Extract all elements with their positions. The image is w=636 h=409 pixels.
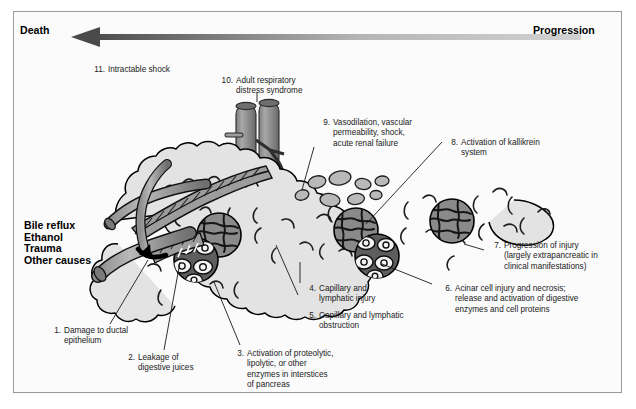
annotation-11-text: Intractable shock [108, 65, 206, 75]
necrosis-circle-right [430, 199, 474, 243]
annotation-5-number: 5. [302, 311, 319, 332]
annotation-10: 10. Adult respiratory distress syndrome [214, 76, 330, 97]
annotation-4: 4. Capillary and lymphatic injury [302, 284, 412, 305]
annotation-2-text: Leakage of digestive juices [138, 353, 219, 374]
causes-label: Bile reflux Ethanol Trauma Other causes [24, 220, 91, 266]
figure-panel: Death Progression Bile reflux Ethanol Tr… [13, 11, 622, 393]
annotation-8: 8. Activation of kallikrein system [444, 138, 584, 159]
annotation-1: 1. Damage to ductal epithelium [45, 326, 153, 347]
annotation-3-text: Activation of proteolytic, lipolytic, or… [247, 349, 362, 391]
annotation-2-number: 2. [119, 353, 138, 374]
annotation-5-text: Capillary and lymphatic obstruction [319, 311, 426, 332]
progression-label: Progression [533, 24, 595, 37]
annotation-2: 2. Leakage of digestive juices [119, 353, 219, 374]
progression-arrow [71, 27, 581, 47]
annotation-11-number: 11. [86, 65, 108, 75]
annotation-7-number: 7. [487, 241, 504, 272]
annotation-3: 3. Activation of proteolytic, lipolytic,… [230, 349, 362, 391]
annotation-9-number: 9. [316, 118, 333, 149]
annotation-11: 11. Intractable shock [86, 65, 206, 75]
annotation-8-number: 8. [444, 138, 461, 159]
annotation-3-number: 3. [230, 349, 247, 391]
annotation-7: 7. Progression of injury (largely extrap… [487, 241, 622, 272]
annotation-9: 9. Vasodilation, vascular permeability, … [316, 118, 444, 149]
annotation-6: 6. Acinar cell injury and necrosis; rele… [438, 284, 618, 315]
annotation-4-number: 4. [302, 284, 319, 305]
annotation-4-text: Capillary and lymphatic injury [319, 284, 412, 305]
annotation-1-number: 1. [45, 326, 64, 347]
death-label: Death [20, 24, 49, 37]
figure-page: Death Progression Bile reflux Ethanol Tr… [0, 0, 636, 409]
annotation-8-text: Activation of kallikrein system [461, 138, 584, 159]
annotation-9-text: Vasodilation, vascular permeability, sho… [333, 118, 444, 149]
annotation-6-text: Acinar cell injury and necrosis; release… [455, 284, 618, 315]
annotation-10-text: Adult respiratory distress syndrome [236, 76, 330, 97]
annotation-5: 5. Capillary and lymphatic obstruction [302, 311, 426, 332]
annotation-6-number: 6. [438, 284, 455, 315]
annotation-7-text: Progression of injury (largely extrapanc… [504, 241, 622, 272]
annotation-1-text: Damage to ductal epithelium [64, 326, 153, 347]
annotation-10-number: 10. [214, 76, 236, 97]
